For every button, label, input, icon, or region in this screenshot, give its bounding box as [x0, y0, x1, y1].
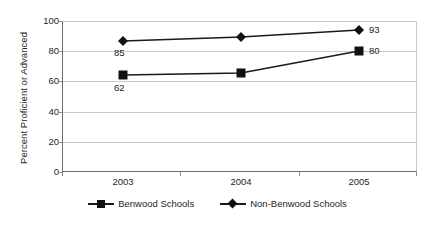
y-tick-label-40: 40: [33, 107, 59, 117]
gridline-20: [63, 142, 416, 143]
x-tick-label-2003: 2003: [93, 176, 153, 188]
square-marker-icon: [88, 198, 114, 209]
legend-label-benwood: Benwood Schools: [118, 198, 194, 209]
data-label-benwood-2005: 80: [369, 46, 380, 56]
data-label-nonbenwood-2005: 93: [369, 25, 380, 35]
x-tick-label-2004: 2004: [211, 176, 271, 188]
data-label-nonbenwood-2003: 85: [114, 48, 125, 58]
legend-item-benwood[interactable]: Benwood Schools: [88, 198, 194, 209]
plot-area: [62, 21, 417, 172]
y-axis-title: Percent Proficient or Advanced: [16, 18, 32, 178]
y-tick-label-80: 80: [33, 46, 59, 56]
chart-legend: Benwood Schools Non-Benwood Schools: [0, 198, 435, 209]
x-tick-mark-left: [62, 172, 63, 176]
legend-item-non-benwood[interactable]: Non-Benwood Schools: [220, 198, 347, 209]
legend-label-non-benwood: Non-Benwood Schools: [250, 198, 347, 209]
gridline-40: [63, 112, 416, 113]
x-tick-mark-2: [299, 172, 300, 176]
x-tick-label-2005: 2005: [329, 176, 389, 188]
y-tick-label-20: 20: [33, 137, 59, 147]
y-tick-label-0: 0: [33, 167, 59, 177]
diamond-marker-icon: [220, 198, 246, 209]
data-label-benwood-2003: 62: [114, 83, 125, 93]
y-tick-label-60: 60: [33, 76, 59, 86]
y-tick-label-100: 100: [33, 16, 59, 26]
x-tick-mark-right: [416, 172, 417, 176]
line-chart: Percent Proficient or Advanced 100 80 60…: [0, 0, 435, 230]
x-tick-mark-1: [180, 172, 181, 176]
